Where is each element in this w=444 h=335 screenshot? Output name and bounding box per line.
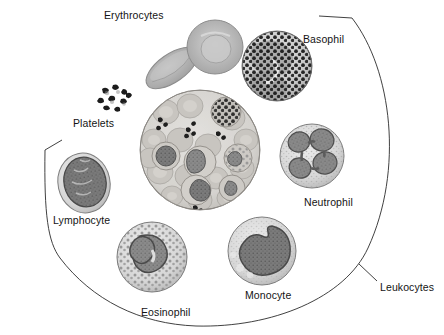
label-lymphocyte: Lymphocyte: [53, 214, 110, 226]
cell-eosinophil: [117, 222, 187, 292]
label-erythrocytes: Erythrocytes: [104, 9, 164, 21]
cell-erythrocyte-face: [187, 20, 243, 74]
cell-neutrophil: [280, 124, 344, 188]
cell-basophil: [242, 31, 312, 101]
cell-platelets: [97, 84, 132, 111]
figure-canvas: Erythrocytes Basophil Platelets Neutroph…: [0, 0, 444, 335]
blood-smear-field: [139, 90, 260, 213]
label-eosinophil: Eosinophil: [141, 306, 190, 318]
blood-cells-illustration: [0, 0, 444, 335]
cell-monocyte: [228, 217, 296, 285]
label-basophil: Basophil: [303, 33, 344, 45]
label-platelets: Platelets: [73, 117, 114, 129]
label-monocyte: Monocyte: [245, 289, 291, 301]
label-neutrophil: Neutrophil: [304, 196, 353, 208]
label-leukocytes: Leukocytes: [380, 281, 434, 293]
cell-lymphocyte: [52, 148, 115, 218]
